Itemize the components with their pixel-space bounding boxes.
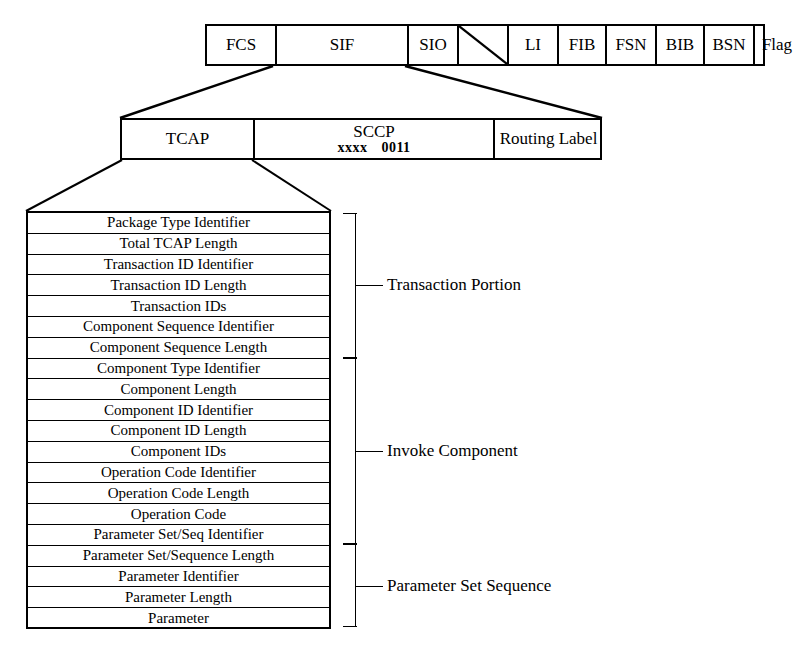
tcap-field-label: Component ID Identifier xyxy=(104,403,253,418)
tcap-field-row: Operation Code xyxy=(28,504,329,525)
bracket-label: Parameter Set Sequence xyxy=(387,576,551,596)
msu-cell-sif: SIF xyxy=(275,26,407,64)
tcap-field-label: Component Sequence Length xyxy=(90,340,267,355)
tcap-field-label: Parameter Set/Seq Identifier xyxy=(94,527,264,542)
tcap-field-label: Parameter Length xyxy=(125,590,232,605)
tcap-field-label: Operation Code Length xyxy=(108,486,250,501)
tcap-field-row: Component ID Identifier xyxy=(28,400,329,421)
tcap-field-label: Operation Code xyxy=(131,507,226,522)
msu-cell-label: SIF xyxy=(330,35,355,55)
tcap-field-row: Transaction ID Length xyxy=(28,275,329,296)
bracket-transaction-portion: Transaction Portion xyxy=(343,213,603,358)
bracket-leader-line xyxy=(355,451,383,452)
tcap-field-label: Parameter Identifier xyxy=(118,569,238,584)
tcap-field-label: Component IDs xyxy=(131,444,226,459)
tcap-field-row: Transaction IDs xyxy=(28,296,329,317)
msu-cell-fib: FIB xyxy=(557,26,605,64)
tcap-field-row: Component Type Identifier xyxy=(28,359,329,380)
sif-cell-label: TCAP xyxy=(166,130,209,147)
bracket-label: Invoke Component xyxy=(387,441,518,461)
sccp-bits-x: xxxx xyxy=(337,140,367,155)
tcap-field-row: Parameter Set/Sequence Length xyxy=(28,546,329,567)
sif-cell-label: SCCP xyxy=(353,123,395,140)
bracket-cap-bottom xyxy=(343,626,357,627)
msu-cell-label: Flag xyxy=(762,35,792,55)
sif-cell-sccp: SCCPxxxx0011 xyxy=(253,120,493,158)
tcap-field-row: Package Type Identifier xyxy=(28,213,329,234)
tcap-field-row: Transaction ID Identifier xyxy=(28,255,329,276)
tcap-field-label: Parameter xyxy=(148,611,209,626)
tcap-field-row: Parameter Identifier xyxy=(28,567,329,588)
bracket-leader-line xyxy=(355,285,383,286)
diagram-canvas: FCSSIFSIOLIFIBFSNBIBBSNFlag TCAPSCCPxxxx… xyxy=(0,0,804,645)
tcap-field-row: Parameter xyxy=(28,608,329,629)
msu-cell-label: FIB xyxy=(569,35,595,55)
tcap-field-table: Package Type IdentifierTotal TCAP Length… xyxy=(26,211,331,629)
tcap-field-label: Transaction ID Length xyxy=(110,278,246,293)
diagonal-slash-icon xyxy=(459,26,507,64)
tcap-field-row: Component ID Length xyxy=(28,421,329,442)
tcap-field-row: Parameter Length xyxy=(28,587,329,608)
msu-cell-flag: Flag xyxy=(753,26,799,64)
bracket-parameter-set-sequence: Parameter Set Sequence xyxy=(343,544,603,627)
tcap-field-row: Parameter Set/Seq Identifier xyxy=(28,525,329,546)
tcap-field-label: Component ID Length xyxy=(111,423,247,438)
tcap-field-row: Total TCAP Length xyxy=(28,234,329,255)
sif-cell-tcap: TCAP xyxy=(122,120,253,158)
sccp-subsystem-bits: xxxx0011 xyxy=(337,141,410,155)
tcap-field-row: Component IDs xyxy=(28,442,329,463)
tcap-field-row: Component Length xyxy=(28,379,329,400)
msu-cell-bib: BIB xyxy=(655,26,703,64)
tcap-field-label: Component Type Identifier xyxy=(97,361,260,376)
msu-field-row: FCSSIFSIOLIFIBFSNBIBBSNFlag xyxy=(205,24,765,66)
sif-field-row: TCAPSCCPxxxx0011Routing Label xyxy=(120,118,602,160)
msu-cell-li: LI xyxy=(507,26,557,64)
sif-cell-label: Routing Label xyxy=(500,130,598,147)
sccp-bits-value: 0011 xyxy=(381,140,410,155)
msu-cell-fcs: FCS xyxy=(207,26,275,64)
msu-cell-label: BIB xyxy=(666,35,694,55)
tcap-field-row: Operation Code Identifier xyxy=(28,463,329,484)
tcap-field-label: Parameter Set/Sequence Length xyxy=(83,548,275,563)
msu-cell-label: BSN xyxy=(712,35,745,55)
tcap-field-label: Component Length xyxy=(120,382,236,397)
tcap-field-label: Operation Code Identifier xyxy=(101,465,256,480)
tcap-field-row: Component Sequence Length xyxy=(28,338,329,359)
sif-cell-routing-label: Routing Label xyxy=(493,120,602,158)
tcap-field-row: Operation Code Length xyxy=(28,483,329,504)
msu-cell-label: SIO xyxy=(419,35,446,55)
msu-cell-bsn: BSN xyxy=(703,26,753,64)
msu-cell-label: FCS xyxy=(226,35,256,55)
msu-cell-sio: SIO xyxy=(407,26,457,64)
msu-cell-label: LI xyxy=(525,35,541,55)
tcap-field-label: Package Type Identifier xyxy=(107,215,250,230)
tcap-field-label: Total TCAP Length xyxy=(119,236,237,251)
tcap-field-label: Transaction IDs xyxy=(131,299,227,314)
bracket-leader-line xyxy=(355,586,383,587)
bracket-label: Transaction Portion xyxy=(387,275,521,295)
tcap-field-label: Transaction ID Identifier xyxy=(104,257,253,272)
tcap-field-row: Component Sequence Identifier xyxy=(28,317,329,338)
msu-cell-fsn: FSN xyxy=(605,26,655,64)
msu-cell-label: FSN xyxy=(615,35,646,55)
bracket-invoke-component: Invoke Component xyxy=(343,358,603,544)
msu-cell-spare-diagonal xyxy=(457,26,507,64)
tcap-field-label: Component Sequence Identifier xyxy=(83,319,274,334)
